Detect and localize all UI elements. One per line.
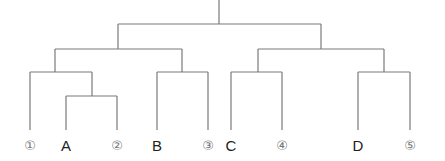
leaf-label-5: ⑤ bbox=[398, 137, 422, 155]
leaf-label-b: B bbox=[145, 137, 169, 155]
leaf-label-c: C bbox=[219, 137, 243, 155]
leaf-label-a: A bbox=[54, 137, 78, 155]
leaf-label-1: ① bbox=[18, 137, 42, 155]
leaf-label-2: ② bbox=[105, 137, 129, 155]
leaf-label-3: ③ bbox=[196, 137, 220, 155]
leaf-label-d: D bbox=[346, 137, 370, 155]
leaf-label-4: ④ bbox=[270, 137, 294, 155]
